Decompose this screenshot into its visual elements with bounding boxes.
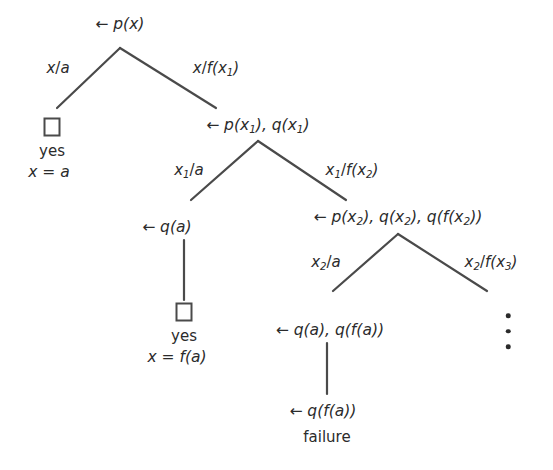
edge-label-x1-over-fx2: x1/f(x2) <box>326 163 379 178</box>
edge-label-x-over-fx1: x/f(x1) <box>193 61 239 76</box>
edge-root-to-goal2 <box>120 48 216 108</box>
edge-label-x2-over-fx3: x2/f(x3) <box>465 255 518 270</box>
node-root-goal: ← p(x) <box>96 17 145 33</box>
node-success-box-1-answer: x = a <box>28 165 70 181</box>
node-failure-label: failure <box>303 430 350 445</box>
node-success-box-1 <box>44 118 61 137</box>
edge-label-x2-over-a: x2/a <box>311 255 341 270</box>
node-goal-qfa: ← q(f(a)) <box>290 404 357 420</box>
node-goal-q-a-qfa: ← q(a), q(f(a)) <box>276 323 384 339</box>
node-goal-q-a: ← q(a) <box>142 220 191 236</box>
node-success-box-1-label: yes <box>39 144 65 159</box>
node-goal-3: ← p(x2), q(x2), q(f(x2)) <box>314 210 482 226</box>
ellipsis-icon <box>506 313 511 349</box>
sld-resolution-tree-figure: ← p(x) yes x = a ← p(x1), q(x1) ← q(a) y… <box>0 0 553 470</box>
node-goal-2: ← p(x1), q(x1) <box>206 118 309 134</box>
edge-label-x1-over-a: x1/a <box>174 163 204 178</box>
node-success-box-2 <box>176 303 193 322</box>
node-success-box-2-label: yes <box>171 329 197 344</box>
edge-goal3-to-qaqfa <box>333 234 398 291</box>
tree-edges <box>0 0 553 470</box>
node-success-box-2-answer: x = f(a) <box>147 350 206 366</box>
edge-root-to-yes1 <box>57 48 120 108</box>
edge-label-x-over-a: x/a <box>46 61 69 76</box>
